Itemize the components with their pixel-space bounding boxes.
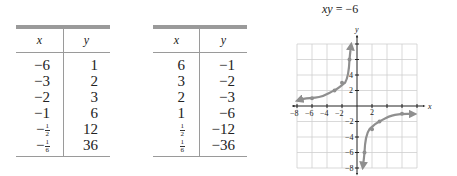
y-tick-label: −4 — [345, 133, 354, 142]
x-tick-label: −4 — [320, 109, 329, 118]
x-tick-label: −2 — [335, 109, 344, 118]
x-tick-label: −6 — [305, 109, 314, 118]
y-tick-label: −8 — [345, 164, 354, 173]
y-tick-label: −6 — [345, 148, 354, 157]
y-tick-label: −2 — [345, 117, 354, 126]
y-axis-label: y — [354, 25, 359, 34]
y-tick-label: 4 — [349, 71, 353, 80]
x-tick-label: 2 — [370, 108, 374, 117]
x-tick-label: −8 — [290, 109, 299, 118]
axes — [293, 36, 424, 174]
left-branch-curve — [299, 46, 351, 100]
y-tick-label: 2 — [349, 86, 353, 95]
hyperbola-graph: x y −8 −6 −4 −2 2 4 2 −2 −4 −6 −8 — [0, 0, 457, 176]
x-axis-label: x — [427, 102, 432, 111]
